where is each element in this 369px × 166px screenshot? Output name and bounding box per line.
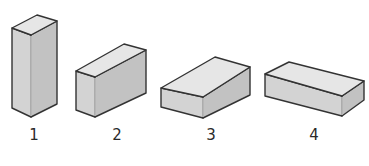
brick-label-4: 4	[309, 126, 319, 144]
brick-label-2: 2	[112, 126, 122, 144]
brick-1	[12, 15, 57, 117]
brick-4	[265, 62, 364, 116]
brick-3	[161, 57, 250, 118]
brick-label-3: 3	[206, 126, 216, 144]
brick-2	[76, 44, 146, 117]
brick-label-1: 1	[29, 126, 39, 144]
brick-1-side-face	[31, 21, 57, 117]
brick-2-front-face	[76, 71, 95, 117]
brick-1-front-face	[12, 28, 31, 117]
